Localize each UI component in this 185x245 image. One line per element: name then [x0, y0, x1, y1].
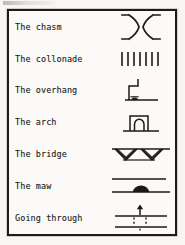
feature-label-bridge: The bridge [15, 150, 107, 158]
table-row: The arch [9, 107, 175, 139]
feature-label-maw: The maw [15, 182, 107, 190]
figure-border-frame: The chasm The collonade [7, 9, 177, 236]
scan-artifact-smudge [3, 1, 55, 5]
maw-icon [107, 170, 175, 202]
feature-label-arch: The arch [15, 118, 107, 126]
table-row: The collonade [9, 43, 175, 75]
overhang-icon [107, 75, 175, 107]
table-row: The maw [9, 170, 175, 202]
arch-icon [107, 107, 175, 139]
bridge-icon [107, 138, 175, 170]
table-row: Going through [9, 202, 175, 234]
table-row: The bridge [9, 138, 175, 170]
scanned-figure-page: The chasm The collonade [0, 0, 185, 245]
feature-row-list: The chasm The collonade [9, 11, 175, 234]
feature-label-collonade: The collonade [15, 55, 107, 63]
feature-label-overhang: The overhang [15, 86, 107, 94]
collonade-icon [107, 43, 175, 75]
going-through-icon [107, 202, 175, 234]
chasm-icon [107, 11, 175, 43]
table-row: The overhang [9, 75, 175, 107]
feature-label-chasm: The chasm [15, 23, 107, 31]
feature-label-going-through: Going through [15, 214, 107, 222]
table-row: The chasm [9, 11, 175, 43]
